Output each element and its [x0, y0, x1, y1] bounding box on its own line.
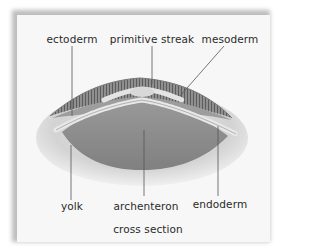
figure-caption: cross section: [113, 223, 183, 235]
label-yolk: yolk: [61, 200, 83, 212]
label-archenteron: archenteron: [114, 200, 179, 212]
label-ectoderm: ectoderm: [46, 33, 97, 45]
label-primitive-streak: primitive streak: [110, 33, 194, 45]
label-endoderm: endoderm: [193, 198, 248, 210]
label-mesoderm: mesoderm: [202, 33, 259, 45]
